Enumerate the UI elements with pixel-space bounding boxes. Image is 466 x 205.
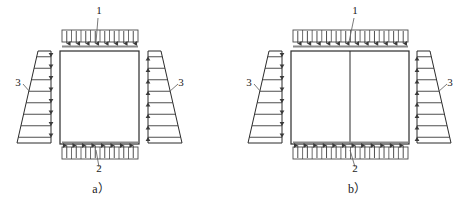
right-pressure-a: 3 — [148, 51, 184, 143]
label-2-b: 2 — [352, 162, 358, 174]
left-pressure-a: 3 — [15, 51, 51, 143]
bottom-load-band-b: 2 — [293, 142, 408, 175]
left-pressure-b: 3 — [246, 51, 282, 143]
top-load-band-b: 1 — [293, 4, 408, 48]
bottom-load-band-a: 2 — [62, 142, 138, 175]
right-pressure-b: 3 — [417, 51, 453, 143]
top-bearing-bar-a — [62, 46, 138, 48]
load-diagram-svg: 1233a）1233b） — [0, 0, 466, 205]
panel-caption-b: b） — [348, 182, 366, 196]
pressure-leader-b — [438, 84, 447, 92]
top-bearing-bar-b — [293, 46, 408, 48]
panels-layer: 1233a）1233b） — [15, 4, 453, 196]
panel-a: 1233a） — [15, 4, 184, 196]
pressure-slope-b — [248, 51, 269, 143]
top-load-band-a: 1 — [62, 4, 138, 48]
label-1-a: 1 — [96, 4, 102, 16]
structure-box-a — [60, 51, 139, 144]
pressure-slope-a — [161, 51, 182, 143]
bottom-bearing-bar-b — [293, 142, 408, 144]
pressure-leader-a — [169, 84, 178, 92]
pressure-leader-b — [254, 84, 261, 92]
label-3-b: 3 — [447, 76, 453, 88]
box-outline-a — [60, 51, 139, 144]
structure-box-b — [291, 51, 409, 144]
label-1-b: 1 — [352, 4, 358, 16]
pressure-leader-a — [23, 84, 30, 92]
pressure-slope-b — [430, 51, 451, 143]
bottom-bearing-bar-a — [62, 142, 138, 144]
label-3-b: 3 — [246, 76, 252, 88]
panel-b: 1233b） — [246, 4, 453, 196]
panel-caption-a: a） — [92, 182, 109, 196]
label-3-a: 3 — [15, 76, 21, 88]
label-2-a: 2 — [96, 162, 102, 174]
label-3-a: 3 — [178, 76, 184, 88]
figure-root: 1233a）1233b） — [0, 0, 466, 205]
pressure-slope-a — [17, 51, 38, 143]
